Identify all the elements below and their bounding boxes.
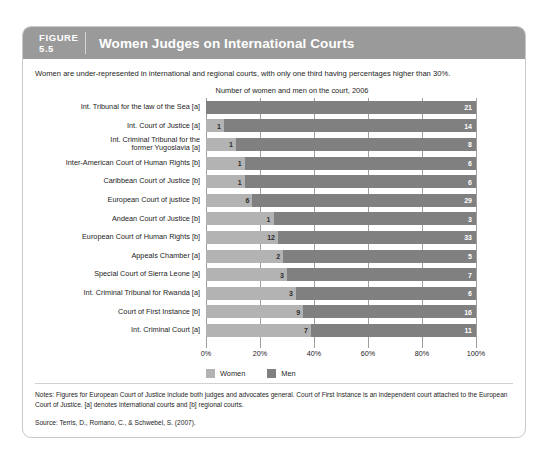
figure-source: Source: Terris, D., Romano, C., & Schweb… [35,418,513,428]
bar-segment-men: 6 [245,175,476,188]
chart-row: Inter-American Court of Human Rights [b]… [23,154,525,173]
bar-segment-men: 16 [303,305,476,318]
page-title: Women Judges on International Courts [99,36,354,51]
chart-plot-area: Int. Tribunal for the law of the Sea [a]… [23,98,525,348]
bar-value-women: 1 [238,178,242,185]
chart-bar-track: 021 [206,101,476,114]
bar-value-men: 29 [464,197,472,204]
chart-row-label-line: Int. Court of Justice [a] [23,122,200,131]
bar-segment-women: 1 [206,175,245,188]
bar-value-men: 3 [468,215,472,222]
chart-row: Andean Court of Justice [b]13 [23,210,525,229]
x-axis-tick-label: 80% [415,349,429,358]
chart-row: Appeals Chamber [a]25 [23,247,525,266]
chart-row-label: Court of First Instance [b] [23,308,206,317]
bar-value-women: 3 [280,271,284,278]
bar-value-men: 8 [468,141,472,148]
bar-segment-men: 6 [296,287,476,300]
figure-number-label: FIGURE [39,32,79,43]
chart-row-label-line: Andean Court of Justice [b] [23,215,200,224]
chart-row-label: Special Court of Sierra Leone [a] [23,270,206,279]
bar-segment-men: 11 [311,324,476,337]
figure-card: FIGURE 5.5 Women Judges on International… [22,26,526,438]
legend-item-men: Men [267,369,295,378]
chart-row: Int. Tribunal for the law of the Sea [a]… [23,98,525,117]
x-axis-tick-label: 20% [253,349,267,358]
chart-bar-track: 36 [206,287,476,300]
bar-segment-women: 1 [206,157,245,170]
notes-divider [35,383,513,384]
figure-subtitle: Women are under-represented in internati… [23,59,525,79]
chart-bar-track: 114 [206,119,476,132]
bar-segment-women: 1 [206,119,224,132]
bar-value-women: 1 [238,160,242,167]
bar-value-women: 12 [267,234,275,241]
chart-bar-track: 1233 [206,231,476,244]
bar-value-men: 21 [464,104,472,111]
chart-row-label: European Court of Human Rights [b] [23,233,206,242]
bar-value-men: 6 [468,178,472,185]
bar-value-men: 14 [464,122,472,129]
x-axis-tick-label: 60% [361,349,375,358]
chart-row: European Court of Human Rights [b]1233 [23,228,525,247]
chart-row-label: Inter-American Court of Human Rights [b] [23,159,206,168]
chart-bar-track: 16 [206,175,476,188]
chart-bar-track: 25 [206,250,476,263]
chart-row: Int. Court of Justice [a]114 [23,117,525,136]
bar-value-women: 1 [229,141,233,148]
chart-row-label: Int. Criminal Court [a] [23,326,206,335]
bar-segment-women: 3 [206,268,287,281]
chart-row-label-line: European Court of justice [b] [23,196,200,205]
bar-segment-men: 21 [206,101,476,114]
x-axis-tick-label: 0% [201,349,211,358]
bar-value-women: 7 [304,327,308,334]
chart-bar-track: 18 [206,138,476,151]
chart-row-label: Int. Court of Justice [a] [23,122,206,131]
bar-value-women: 1 [267,215,271,222]
chart-row: Caribbean Court of Justice [b]16 [23,172,525,191]
bar-segment-men: 33 [278,231,476,244]
chart-row-label: Int. Criminal Tribunal for Rwanda [a] [23,289,206,298]
chart-row: Int. Criminal Tribunal for Rwanda [a]36 [23,284,525,303]
chart-row-label-line: Court of First Instance [b] [23,308,200,317]
bar-segment-men: 6 [245,157,476,170]
bar-value-men: 7 [468,271,472,278]
chart-row-label-line: Caribbean Court of Justice [b] [23,177,200,186]
chart-caption: Number of women and men on the court, 20… [59,86,525,95]
chart-row-label: Andean Court of Justice [b] [23,215,206,224]
bar-value-men: 16 [464,308,472,315]
figure-notes: Notes: Figures for European Court of Jus… [35,390,513,409]
figure-number: FIGURE 5.5 [39,32,83,54]
bar-segment-women: 3 [206,287,296,300]
legend-swatch-women-icon [206,369,215,378]
bar-value-men: 5 [468,253,472,260]
bar-segment-women: 1 [206,212,274,225]
bar-segment-men: 5 [283,250,476,263]
chart-row-label-line: European Court of Human Rights [b] [23,233,200,242]
chart-row-label-line: Int. Tribunal for the law of the Sea [a] [23,103,200,112]
legend-item-women: Women [206,369,245,378]
chart-bar-track: 37 [206,268,476,281]
bar-segment-women: 2 [206,250,283,263]
figure-body: Women are under-represented in internati… [23,59,525,438]
chart-x-axis: 0%20%40%60%80%100% [206,348,476,362]
bar-segment-women: 9 [206,305,303,318]
bar-segment-women: 6 [206,194,252,207]
chart-row-label: Int. Criminal Tribunal for theformer Yug… [23,136,206,153]
legend-swatch-men-icon [267,369,276,378]
chart-row-label-line: Inter-American Court of Human Rights [b] [23,159,200,168]
header-divider [85,32,86,54]
legend-label-women: Women [220,369,245,378]
bar-value-women: 6 [245,197,249,204]
bar-value-men: 6 [468,160,472,167]
chart-bar-track: 916 [206,305,476,318]
chart-legend: Women Men [206,366,525,380]
chart-bar-track: 13 [206,212,476,225]
bar-segment-women: 12 [206,231,278,244]
chart-row-label-line: former Yugoslavia [a] [23,144,200,153]
chart-row-label: Caribbean Court of Justice [b] [23,177,206,186]
bar-value-women: 9 [296,308,300,315]
bar-segment-women: 7 [206,324,311,337]
chart-row-label: Appeals Chamber [a] [23,252,206,261]
chart-row: Special Court of Sierra Leone [a]37 [23,265,525,284]
